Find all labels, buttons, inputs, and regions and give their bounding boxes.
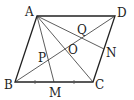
- label-m: M: [49, 86, 61, 100]
- label-a: A: [24, 5, 34, 19]
- label-n: N: [106, 46, 117, 60]
- label-p: P: [38, 51, 46, 65]
- diagonal-bd: [15, 16, 115, 82]
- label-b: B: [4, 78, 13, 92]
- parallelogram-diagram: A D B C M N O P Q: [0, 0, 134, 100]
- label-c: C: [95, 78, 104, 92]
- label-d: D: [117, 6, 127, 20]
- label-o: O: [68, 43, 78, 57]
- label-q: Q: [77, 23, 87, 37]
